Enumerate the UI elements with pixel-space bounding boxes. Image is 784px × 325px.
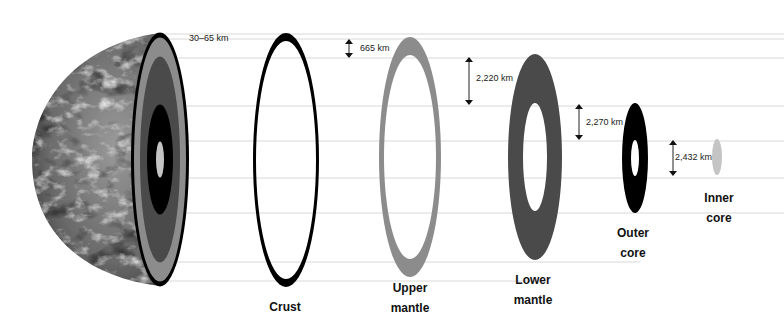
arrow-head-down	[345, 53, 353, 58]
inner-core-ring	[712, 139, 722, 175]
outer-core-thickness-label: 2,270 km	[586, 117, 623, 127]
outer-core-label-line-2: core	[593, 243, 673, 263]
arrow-head-up	[345, 39, 353, 44]
outer-core-label: Outer core	[593, 223, 673, 263]
inner-core-thickness-label: 2,432 km	[675, 152, 712, 162]
earth-layers-diagram: 30–65 km 665 km 2,220 km 2,270 km 2,432 …	[0, 0, 784, 325]
cutaway-inner-core	[156, 142, 164, 178]
crust-label-line-1: Crust	[269, 300, 300, 314]
outer-core-ring	[622, 103, 648, 213]
diagram-canvas	[0, 0, 784, 325]
outer-core-label-line-1: Outer	[593, 223, 673, 243]
crust-label: Crust	[245, 297, 325, 317]
upper-mantle-thickness-label: 665 km	[360, 43, 390, 53]
upper-mantle-label-line-1: Upper	[370, 278, 450, 298]
arrow-head-down	[575, 135, 583, 140]
upper-mantle-ring	[379, 37, 441, 277]
lower-mantle-label: Lower mantle	[493, 270, 573, 310]
outer-core-thickness-arrow	[575, 104, 583, 140]
crust-ring	[253, 33, 319, 287]
lower-mantle-ring	[508, 54, 562, 260]
arrow-head-down	[465, 100, 473, 105]
arrow-head-down	[669, 171, 677, 176]
lower-mantle-label-line-2: mantle	[493, 290, 573, 310]
lower-mantle-thickness-label: 2,220 km	[476, 73, 513, 83]
lower-mantle-label-line-1: Lower	[493, 270, 573, 290]
crust-thickness-label: 30–65 km	[189, 33, 229, 43]
inner-core-label-line-1: Inner	[679, 188, 759, 208]
inner-core-label-line-2: core	[679, 208, 759, 228]
upper-mantle-label-line-2: mantle	[370, 298, 450, 318]
upper-mantle-thickness-arrow	[345, 39, 353, 58]
lower-mantle-thickness-arrow	[465, 57, 473, 105]
upper-mantle-label: Upper mantle	[370, 278, 450, 318]
inner-core-label: Inner core	[679, 188, 759, 228]
earth-globe-cutaway	[20, 25, 189, 295]
